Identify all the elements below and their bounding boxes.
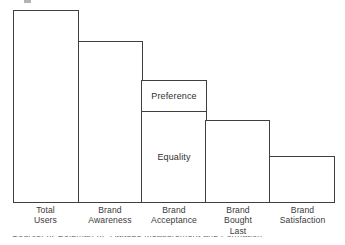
x-tick-label-line: Brand (78, 205, 142, 215)
x-tick-label-line: Total (13, 205, 78, 215)
bar-series: Preference Equality (13, 10, 335, 203)
x-tick-label-line: Acceptance (142, 215, 206, 225)
bar-segment-equality: Equality (142, 111, 205, 203)
bar-segment (270, 157, 334, 203)
funnel-bar-chart-figure: Preference Equality Tota (0, 0, 345, 245)
x-tick-label-line: Awareness (78, 215, 142, 225)
bar-brand-satisfaction (269, 156, 335, 203)
x-axis-category-labels: Total Users Brand Awareness Brand Accept… (13, 205, 335, 236)
x-tick-label-line: Bought (206, 215, 270, 225)
bar-brand-bought-last (205, 120, 270, 203)
equality-segment-label: Equality (157, 152, 190, 162)
x-tick-label-line: Users (13, 215, 78, 225)
bar-segment (79, 42, 142, 203)
x-tick-label-line: Brand (270, 205, 335, 215)
preference-segment-label: Preference (151, 91, 197, 101)
x-tick-label-total-users: Total Users (13, 205, 78, 236)
cropped-top-artifact (24, 0, 31, 3)
bar-segment (14, 11, 78, 203)
x-tick-label-brand-satisfaction: Brand Satisfaction (270, 205, 335, 236)
x-tick-label-line: Last (206, 226, 270, 236)
caption-text: Source: ... Goldman ... "Attitude Measur… (12, 236, 342, 240)
x-tick-label-brand-awareness: Brand Awareness (78, 205, 142, 236)
cropped-caption-strip: Source: ... Goldman ... "Attitude Measur… (0, 236, 345, 245)
bar-brand-acceptance: Preference Equality (141, 80, 206, 203)
bar-segment-preference: Preference (142, 81, 205, 111)
bar-total-users (13, 10, 79, 203)
x-axis-line (13, 202, 335, 204)
bar-brand-awareness (78, 41, 143, 203)
x-tick-label-brand-bought-last: Brand Bought Last (206, 205, 270, 236)
bar-segment (206, 121, 269, 203)
plot-area: Preference Equality (13, 10, 335, 203)
x-tick-label-brand-acceptance: Brand Acceptance (142, 205, 206, 236)
x-tick-label-line: Brand (206, 205, 270, 215)
x-tick-label-line: Satisfaction (270, 215, 335, 225)
x-tick-label-line: Brand (142, 205, 206, 215)
